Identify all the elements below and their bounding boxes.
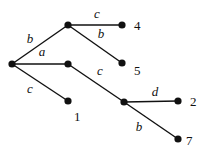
edge-label: c [27,81,33,96]
node-leaf4 [118,21,125,28]
edge-label: c [97,63,103,78]
leaf-label: 4 [134,18,141,33]
node-leaf2 [174,97,181,104]
leaf-label: 2 [190,94,197,109]
node-n_b [64,21,71,28]
node-n_c2 [120,98,127,105]
leaf-label: 7 [186,133,193,148]
tree-diagram: baccbcdb45127 [0,0,204,154]
edge-label: a [39,44,46,59]
edge-label: c [94,6,100,21]
edge-n_c2-leaf7 [124,102,178,139]
leaf-label: 1 [74,109,81,124]
edge-root-leaf1 [12,64,68,101]
node-root [8,60,15,67]
leaf-label: 5 [134,63,141,78]
node-leaf7 [174,135,181,142]
edge-label: b [98,26,105,41]
edge-n_b-leaf5 [68,25,122,63]
edge-label: b [136,119,143,134]
edge-n_c2-leaf2 [124,101,178,102]
node-n_a [64,60,71,67]
node-leaf5 [118,59,125,66]
edge-label: b [27,31,34,46]
node-leaf1 [64,97,71,104]
edge-label: d [152,84,159,99]
edge-n_a-n_c2 [68,64,124,102]
